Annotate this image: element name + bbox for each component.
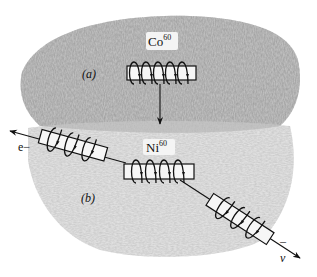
nickel-label: Ni60 bbox=[143, 139, 175, 155]
svg-text:¯: ¯ bbox=[279, 241, 287, 255]
panel-b-label: (b) bbox=[81, 191, 95, 205]
antineutrino-label: ν ¯ bbox=[279, 241, 287, 265]
cobalt-label: Co60 bbox=[146, 32, 178, 50]
panel-a-label: (a) bbox=[82, 67, 96, 81]
electron-label: e− bbox=[18, 140, 30, 154]
nickel-spin-coil bbox=[124, 160, 194, 183]
beta-decay-diagram: Co60 (a) (b) e− bbox=[0, 0, 317, 277]
